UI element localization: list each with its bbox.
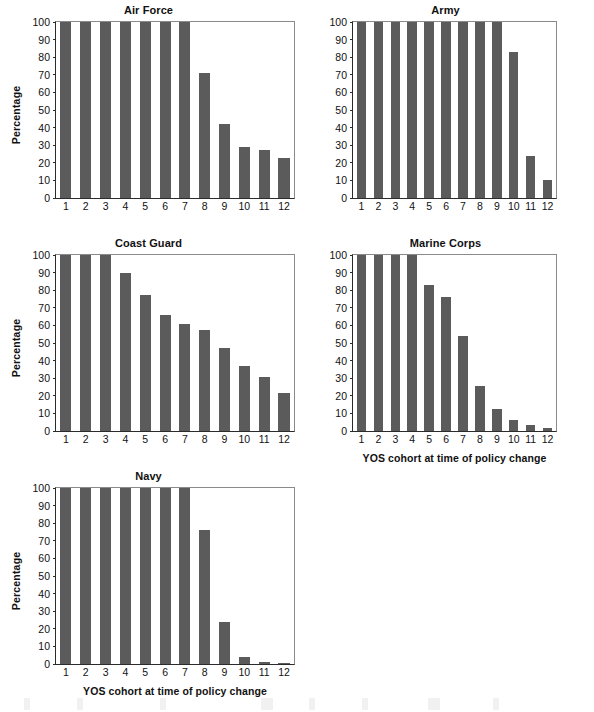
bar-slot: [488, 255, 505, 431]
bar-slot: [254, 488, 274, 664]
x-axis-tick-label: 6: [155, 201, 175, 212]
x-axis-tick-label: 3: [387, 201, 404, 212]
y-axis-tick-mark: [53, 255, 56, 256]
bar-slot: [488, 22, 505, 198]
x-axis-tick-label: 12: [274, 201, 294, 212]
bar: [407, 255, 416, 431]
bar: [199, 530, 210, 664]
bar-slot: [76, 488, 96, 664]
bar: [140, 488, 151, 664]
bar-group: [353, 22, 556, 198]
y-axis-tick-label: 70: [28, 303, 53, 313]
x-axis-tick-label: 4: [115, 201, 135, 212]
bar-slot: [539, 255, 556, 431]
x-axis-tick-label: 1: [353, 201, 370, 212]
y-axis-tick-mark: [350, 395, 353, 396]
bar: [80, 22, 91, 198]
y-axis-tick-label: 80: [325, 285, 350, 295]
bar-slot: [505, 255, 522, 431]
y-axis-label: Percentage: [10, 75, 22, 155]
x-axis-tick-label: 8: [195, 201, 215, 212]
y-axis-tick-label: 60: [28, 320, 53, 330]
y-axis-tick-label: 100: [325, 250, 350, 260]
y-axis-tick-mark: [350, 307, 353, 308]
bar-slot: [471, 255, 488, 431]
x-axis-tick-label: 11: [522, 434, 539, 445]
plot-area: 0102030405060708090100 123456789101112: [55, 487, 295, 665]
x-axis-label: YOS cohort at time of policy change: [55, 685, 295, 697]
y-axis-tick: 0: [28, 659, 56, 669]
y-axis-tick: 20: [325, 158, 353, 168]
y-axis-tick-label: 30: [28, 140, 53, 150]
y-axis-tick: 100: [28, 483, 56, 493]
x-axis-tick-label: 10: [234, 667, 254, 678]
x-axis-tick-label: 1: [353, 434, 370, 445]
x-axis-label: YOS cohort at time of policy change: [352, 452, 557, 464]
y-axis-tick-mark: [350, 180, 353, 181]
y-axis-tick: 0: [28, 426, 56, 436]
y-axis-tick-label: 10: [28, 408, 53, 418]
bar-slot: [370, 22, 387, 198]
y-axis-tick-label: 20: [28, 624, 53, 634]
y-axis-tick-mark: [53, 646, 56, 647]
bar: [278, 158, 289, 198]
bar: [219, 622, 230, 664]
bar-slot: [155, 488, 175, 664]
y-axis-tick-mark: [350, 255, 353, 256]
bar-slot: [387, 22, 404, 198]
bar: [492, 409, 501, 431]
y-axis-tick: 90: [325, 35, 353, 45]
y-axis-tick: 70: [28, 536, 56, 546]
y-axis-tick: 90: [28, 501, 56, 511]
x-axis-tick-label: 5: [421, 434, 438, 445]
y-axis-tick-label: 0: [28, 426, 53, 436]
x-axis-tick-label: 12: [274, 434, 294, 445]
x-axis-tick-label: 8: [471, 201, 488, 212]
bar: [179, 324, 190, 431]
y-axis-tick-label: 90: [28, 501, 53, 511]
bar-slot: [195, 255, 215, 431]
figure-multi-panel-bar-charts: Air Force Percentage 0102030405060708090…: [0, 0, 594, 712]
y-axis-tick-label: 100: [28, 250, 53, 260]
y-axis-tick-mark: [350, 325, 353, 326]
y-axis-tick: 50: [28, 571, 56, 581]
y-axis-tick-label: 70: [28, 70, 53, 80]
y-axis-tick: 50: [28, 105, 56, 115]
bar-slot: [115, 22, 135, 198]
x-axis-tick-label: 10: [234, 434, 254, 445]
y-axis-tick-label: 80: [28, 52, 53, 62]
bar-slot: [438, 255, 455, 431]
bar: [199, 330, 210, 431]
y-axis-tick: 90: [28, 268, 56, 278]
bar: [100, 488, 111, 664]
y-axis-tick: 80: [325, 52, 353, 62]
y-axis-tick-label: 10: [325, 408, 350, 418]
bar-slot: [76, 255, 96, 431]
y-axis-tick-label: 60: [28, 553, 53, 563]
bar-group: [56, 22, 294, 198]
bar: [160, 315, 171, 431]
bar-slot: [135, 255, 155, 431]
y-axis-tick-mark: [53, 307, 56, 308]
x-axis-tick-label: 3: [96, 201, 116, 212]
y-axis-tick-label: 100: [28, 483, 53, 493]
y-axis-tick-label: 90: [28, 35, 53, 45]
x-axis-tick-label: 7: [175, 667, 195, 678]
x-axis-tick-label: 12: [539, 434, 556, 445]
bar-slot: [215, 255, 235, 431]
y-axis-tick: 40: [325, 356, 353, 366]
x-axis-tick-label: 3: [387, 434, 404, 445]
x-axis-tick-label: 6: [438, 201, 455, 212]
panel-navy: Navy Percentage 0102030405060708090100 1…: [0, 470, 297, 712]
x-axis-tick-label: 3: [96, 434, 116, 445]
y-axis-tick-label: 30: [325, 140, 350, 150]
x-axis-tick-label: 8: [471, 434, 488, 445]
y-axis-tick-label: 10: [28, 641, 53, 651]
x-axis-tick-label: 9: [215, 667, 235, 678]
y-axis-tick-mark: [53, 39, 56, 40]
x-axis-ticks: 123456789101112: [56, 198, 294, 212]
bar: [239, 657, 250, 664]
y-axis-tick: 30: [325, 140, 353, 150]
x-axis-tick-label: 10: [505, 201, 522, 212]
y-axis-tick-mark: [53, 127, 56, 128]
